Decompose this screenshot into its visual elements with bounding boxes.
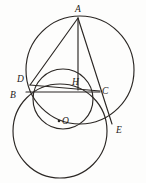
label-o: O: [62, 116, 69, 126]
label-e: E: [115, 125, 122, 135]
label-c: C: [102, 86, 109, 96]
label-a: A: [74, 4, 81, 14]
segment-ae: [78, 18, 112, 124]
segment-ad: [30, 18, 78, 85]
label-b: B: [10, 90, 16, 100]
geometry-figure: A B C D E H O: [0, 0, 146, 183]
label-d: D: [16, 74, 24, 84]
center-point-o-dot: [58, 120, 61, 123]
circumcircle-abe: [26, 16, 134, 124]
label-h: H: [71, 77, 80, 87]
circle-lower-left: [13, 84, 107, 178]
geometry-canvas: A B C D E H O: [0, 0, 146, 183]
